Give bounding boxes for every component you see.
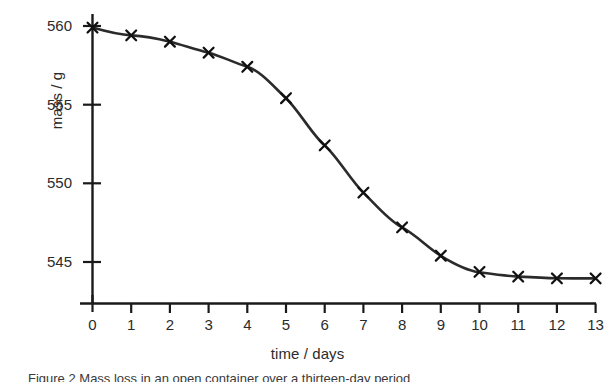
data-markers bbox=[88, 23, 601, 284]
x-tick-label-10: 10 bbox=[465, 316, 495, 333]
x-tick-label-2: 2 bbox=[155, 316, 185, 333]
y-tick-label-550: 550 bbox=[26, 174, 72, 191]
y-tick-label-560: 560 bbox=[26, 17, 72, 34]
x-tick-label-11: 11 bbox=[503, 316, 533, 333]
data-point-day-6 bbox=[320, 141, 330, 151]
x-tick-label-6: 6 bbox=[310, 316, 340, 333]
figure-caption: Figure 2 Mass loss in an open container … bbox=[28, 371, 598, 382]
data-point-day-9 bbox=[436, 251, 446, 261]
x-tick-label-9: 9 bbox=[426, 316, 456, 333]
data-point-day-7 bbox=[359, 188, 369, 198]
y-tick-label-545: 545 bbox=[26, 253, 72, 270]
data-point-day-8 bbox=[397, 223, 407, 233]
x-tick-label-5: 5 bbox=[271, 316, 301, 333]
x-tick-label-4: 4 bbox=[232, 316, 262, 333]
data-point-day-5 bbox=[281, 93, 291, 103]
x-tick-label-1: 1 bbox=[116, 316, 146, 333]
x-axis-title: time / days bbox=[0, 345, 615, 362]
x-tick-label-3: 3 bbox=[194, 316, 224, 333]
x-tick-label-8: 8 bbox=[387, 316, 417, 333]
x-tick-label-7: 7 bbox=[348, 316, 378, 333]
y-axis-title: mass / g bbox=[48, 41, 65, 161]
x-tick-label-0: 0 bbox=[78, 316, 108, 333]
x-tick-label-13: 13 bbox=[581, 316, 611, 333]
x-tick-label-12: 12 bbox=[542, 316, 572, 333]
figure-container: 560 555 550 545 0 1 2 3 4 5 6 7 8 9 10 1… bbox=[0, 0, 615, 382]
data-line-mass bbox=[93, 28, 596, 279]
